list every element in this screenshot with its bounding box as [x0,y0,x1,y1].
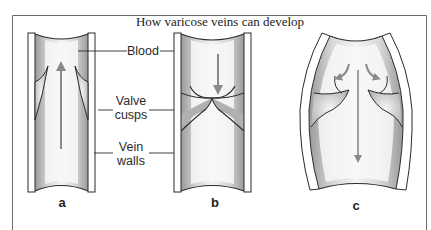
figure-title: How varicose veins can develop [136,14,304,29]
varicose-veins-diagram: How varicose veins can develop a Blood V… [0,0,431,230]
vein-b-right-wall [244,33,251,192]
vein-b-left-wall [174,33,181,192]
vein-a-right-wall [88,33,95,192]
label-blood: Blood [127,44,159,58]
label-valve: Valve [116,94,146,108]
panel-b-closed-valve: b [174,33,251,210]
label-cusps: cusps [115,108,148,122]
panel-a-label: a [58,195,66,210]
panel-c-label: c [352,198,359,213]
label-walls: walls [116,154,145,168]
panel-a-healthy-vein: a [28,33,95,210]
vein-a-left-wall [28,33,35,192]
panel-c-varicose-vein: c [300,33,412,213]
label-vein: Vein [119,140,143,154]
panel-b-label: b [211,195,219,210]
